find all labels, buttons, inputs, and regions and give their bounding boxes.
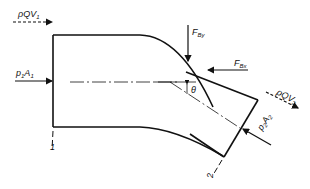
pressure-out-arrow — [243, 129, 271, 145]
pipe-lower-outlet-edge — [190, 134, 224, 157]
outlet-top-wall — [213, 101, 258, 107]
force-by-label: FBy — [192, 27, 206, 38]
angle-label: θ — [191, 85, 196, 95]
section-2-label: 2 — [205, 173, 215, 179]
section-2-cut — [213, 160, 222, 175]
pressure-in-label: p1A1 — [15, 68, 34, 79]
pipe-upper-outlet-edge — [186, 72, 258, 100]
momentum-in-label: ρQV1 — [17, 9, 40, 20]
pipe-bottom-wall — [53, 127, 223, 156]
momentum-out-label: ρQV2 — [274, 86, 300, 107]
pressure-out-label: p2A2 — [255, 111, 275, 133]
force-bx-label: FBx — [234, 58, 248, 69]
section-1-label: 1 — [50, 142, 55, 152]
pipe-bend-diagram: θ ρQV1 p1A1 FBy FBx ρQV2 p2A2 1 2 — [0, 0, 310, 189]
section-2-face — [224, 100, 258, 157]
pipe-top-wall — [53, 35, 213, 107]
